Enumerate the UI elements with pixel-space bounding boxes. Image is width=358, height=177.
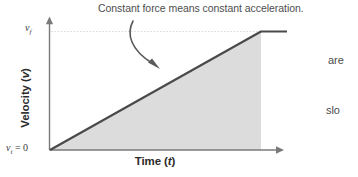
annotation-curved-arrow bbox=[130, 21, 152, 63]
y-axis-title-variable: v bbox=[19, 72, 31, 78]
y-tick-label-final-velocity: vf bbox=[25, 22, 31, 36]
y-axis-title-text: Velocity ( bbox=[19, 78, 31, 128]
x-axis-title-text: Time ( bbox=[135, 155, 168, 167]
velocity-time-plot bbox=[0, 0, 358, 177]
annotation-arrowhead bbox=[148, 59, 160, 70]
y-tick-final-subscript: f bbox=[29, 28, 31, 36]
callout-area-label: are bbox=[328, 54, 344, 66]
x-axis-title-paren: ) bbox=[172, 155, 176, 167]
x-axis-title: Time (t) bbox=[95, 155, 215, 167]
x-axis-arrowhead bbox=[276, 146, 284, 153]
y-axis-title-paren: ) bbox=[19, 68, 31, 72]
figure-canvas: Constant force means constant accelerati… bbox=[0, 0, 358, 177]
callout-slope-label: slo bbox=[326, 104, 340, 116]
y-tick-label-initial-velocity: vi = 0 bbox=[6, 142, 28, 156]
y-axis-title: Velocity (v) bbox=[19, 53, 31, 143]
y-axis-arrowhead bbox=[46, 17, 53, 25]
y-tick-initial-value: = 0 bbox=[12, 142, 28, 153]
